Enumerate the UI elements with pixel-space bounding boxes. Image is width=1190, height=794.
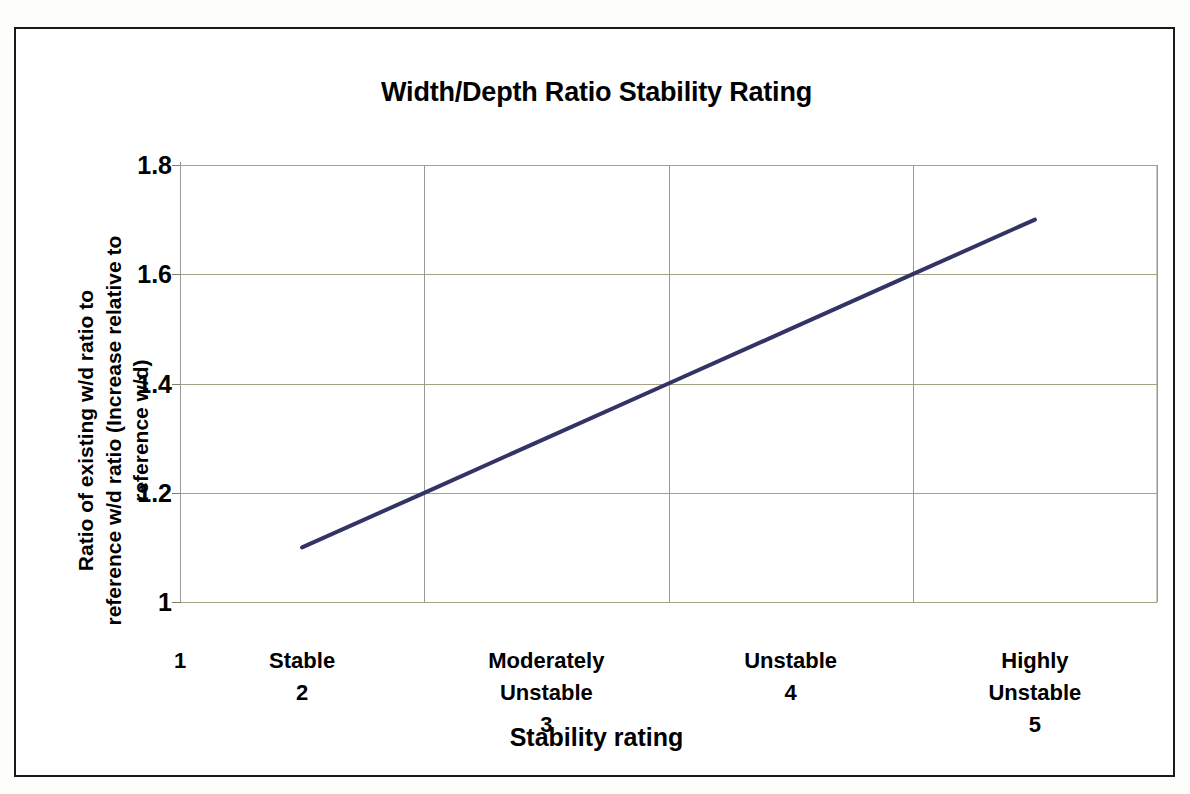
x-axis-category-name: Unstable: [666, 645, 916, 677]
x-axis-category-number: 2: [177, 677, 427, 709]
x-axis-category-labels: 1Stable2ModeratelyUnstable3Unstable4High…: [180, 607, 1157, 737]
x-axis-category-label: Unstable4: [666, 645, 916, 709]
gridline-horizontal: [180, 602, 1157, 603]
scanned-page: Width/Depth Ratio Stability Rating Ratio…: [0, 0, 1190, 794]
x-axis-category-name: Highly: [910, 645, 1160, 677]
series-line-chart: [180, 165, 1157, 602]
y-axis-tick: [172, 602, 181, 603]
x-axis-category-name: Unstable: [421, 677, 671, 709]
y-axis-tick-label: 1.2: [62, 478, 172, 507]
y-axis-tick-label: 1: [62, 588, 172, 617]
y-axis-tick-label: 1.4: [62, 369, 172, 398]
x-axis-category-name: Stable: [177, 645, 427, 677]
chart-title: Width/Depth Ratio Stability Rating: [16, 77, 1177, 108]
x-axis-category-name: Unstable: [910, 677, 1160, 709]
gridline-vertical: [1157, 165, 1158, 602]
y-axis-tick-label: 1.8: [62, 151, 172, 180]
chart-frame: Width/Depth Ratio Stability Rating Ratio…: [14, 27, 1175, 777]
y-axis-tick-labels: 1.81.61.41.21: [52, 165, 172, 602]
plot-area: [180, 165, 1157, 602]
x-axis-title: Stability rating: [16, 723, 1177, 752]
x-axis-category-number: 4: [666, 677, 916, 709]
x-axis-category-name: Moderately: [421, 645, 671, 677]
y-axis-tick-label: 1.6: [62, 260, 172, 289]
series-line-wd-ratio: [302, 220, 1035, 548]
x-axis-category-label: Stable2: [177, 645, 427, 709]
